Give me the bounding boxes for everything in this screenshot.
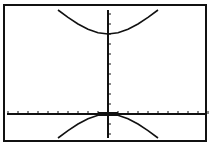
window-frame — [4, 5, 206, 141]
graph-screen — [0, 0, 210, 147]
